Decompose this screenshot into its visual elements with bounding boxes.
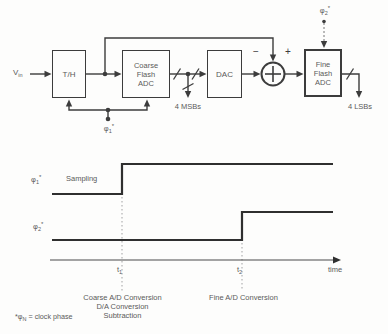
t2-subscript: 2 (239, 269, 242, 275)
phi2-row-asterisk: * (41, 221, 43, 227)
msb-arrowhead-icon (185, 91, 191, 98)
fine-input-arrowhead-icon (297, 71, 304, 77)
summer-left-arrowhead-icon (254, 71, 261, 77)
msb-output-bus (183, 74, 194, 98)
time-axis (50, 257, 341, 264)
dac-block: DAC (207, 50, 242, 98)
coarse-clock-arrowhead-icon (144, 100, 150, 107)
coarse-flash-adc-block: Coarse Flash ADC (122, 50, 170, 98)
vin-wire (30, 71, 52, 77)
summer-top-arrowhead-icon (270, 55, 276, 62)
fine-flash-adc-block: Fine Flash ADC (304, 49, 342, 97)
msb-bus-label: 4 MSBs (160, 103, 216, 111)
footnote-rest: = clock phase (26, 312, 72, 321)
th-block-label: T/H (63, 70, 76, 79)
coarse-input-arrowhead-icon (115, 71, 122, 77)
clock-phase-footnote: *φN = clock phase (15, 313, 73, 322)
sampling-label: Sampling (66, 175, 97, 183)
lsb-line (342, 74, 359, 91)
phi1-row-asterisk: * (39, 174, 41, 180)
dac-to-summer-wire (242, 71, 261, 77)
figure-two-step-adc: Vin T/H Coarse Flash ADC DAC Fine Flash … (0, 0, 388, 334)
summer-minus-sign: − (250, 46, 262, 57)
summer-plus-sign: + (282, 46, 294, 57)
fine-flash-adc-label: Fine Flash ADC (314, 60, 332, 87)
phi2-arrowhead-icon (321, 41, 327, 48)
coarse-phase-annotation: Coarse A/D Conversion D/A Conversion Sub… (60, 294, 185, 320)
phi2-waveform (52, 212, 333, 240)
time-axis-label: time (328, 266, 342, 274)
phi2-asterisk: * (328, 5, 330, 11)
th-clock-arrowhead-icon (66, 100, 72, 107)
th-to-coarse-wire (86, 71, 122, 77)
phi2-terminal-dot (322, 20, 326, 24)
t2-label: t2 (237, 266, 242, 275)
phi1-terminal-dot (106, 117, 111, 122)
t1-subscript: 1 (119, 269, 122, 275)
dac-input-arrowhead-icon (200, 71, 207, 77)
summer-node (262, 63, 285, 86)
time-axis-arrowhead-icon (333, 257, 341, 264)
phi1-row-label: φ1* (31, 174, 41, 185)
phi2-clock-wire (321, 20, 327, 48)
lsb-bus-label: 4 LSBs (332, 103, 388, 111)
fine-phase-annotation: Fine A/D Conversion (181, 294, 306, 302)
dac-label: DAC (216, 70, 233, 79)
phi1-clock-label: φ1* (97, 123, 121, 134)
phi1-clock-wire (66, 100, 150, 122)
lsb-arrowhead-icon (356, 91, 362, 98)
vin-arrowhead-icon (45, 71, 52, 77)
summer-to-fine-wire (285, 71, 304, 77)
th-block: T/H (52, 50, 86, 98)
phi2-row-label: φ2* (33, 221, 43, 232)
phi1-asterisk: * (112, 123, 114, 129)
coarse-flash-adc-label: Coarse Flash ADC (134, 61, 158, 88)
phi2-clock-label: φ2* (315, 5, 335, 16)
vin-subscript: in (18, 72, 22, 78)
lsb-output-bus (342, 69, 362, 99)
t1-label: t1 (117, 266, 122, 275)
vin-label: Vin (13, 69, 23, 78)
